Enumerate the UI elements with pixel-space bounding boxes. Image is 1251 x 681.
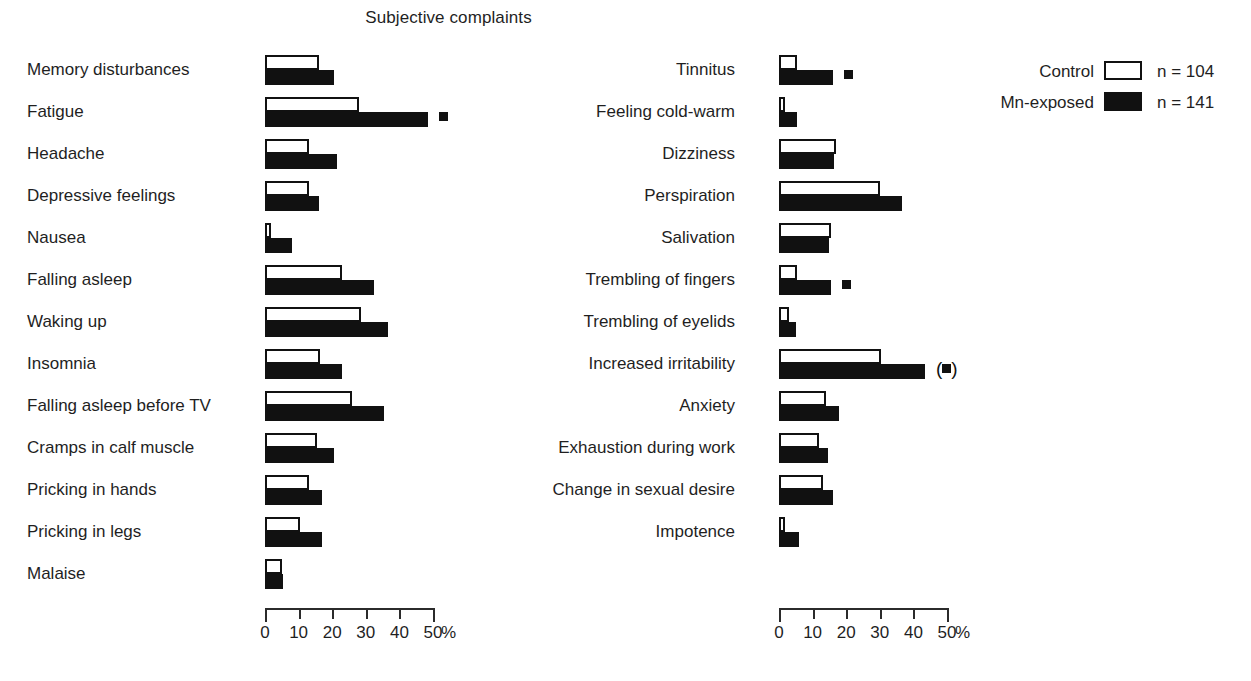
significance-marker-borderline: () (936, 360, 958, 377)
chart-row: Trembling of fingers (0, 265, 1251, 307)
bar-control (779, 223, 831, 238)
bar-control (779, 349, 881, 364)
axis-tick-label: 50 (424, 624, 443, 641)
axis-tick-label: 20 (837, 624, 856, 641)
row-label: Trembling of eyelids (584, 313, 736, 330)
bar-exposed (779, 532, 799, 547)
bar-control (779, 97, 785, 112)
axis-tick (299, 608, 301, 619)
chart-row: Change in sexual desire (0, 475, 1251, 517)
bar-exposed (779, 154, 834, 169)
row-label: Trembling of fingers (585, 271, 735, 288)
bar-exposed (779, 196, 902, 211)
axis-tick-label: 0 (774, 624, 783, 641)
chart-row: Perspiration (0, 181, 1251, 223)
bar-exposed (779, 70, 833, 85)
axis-tick (366, 608, 368, 619)
axis-tick-label: 10 (289, 624, 308, 641)
bar-control (779, 55, 797, 70)
row-label: Perspiration (644, 187, 735, 204)
chart-row: Trembling of eyelids (0, 307, 1251, 349)
bar-control (779, 265, 797, 280)
axis-tick (913, 608, 915, 619)
axis-tick-label: 20 (323, 624, 342, 641)
legend-label-mn-exposed: Mn-exposed (1000, 94, 1094, 111)
chart-row: Impotence (0, 517, 1251, 559)
x-axis: 01020304050% (265, 608, 433, 654)
axis-tick-label: 10 (803, 624, 822, 641)
row-label: Exhaustion during work (558, 439, 735, 456)
axis-tick (399, 608, 401, 619)
bar-control (779, 391, 826, 406)
legend-n-mn-exposed: n = 141 (1157, 94, 1214, 111)
axis-line (779, 608, 949, 622)
axis-tick (846, 608, 848, 619)
bar-exposed (779, 322, 796, 337)
bar-exposed (779, 238, 829, 253)
row-label: Dizziness (662, 145, 735, 162)
legend-item: Control n = 104 (980, 58, 1240, 89)
bar-control (779, 181, 880, 196)
legend-label-control: Control (1039, 63, 1094, 80)
x-axis: 01020304050% (779, 608, 947, 654)
chart-row: Dizziness (0, 139, 1251, 181)
row-label: Anxiety (679, 397, 735, 414)
bar-control (779, 307, 789, 322)
axis-tick-label: 40 (390, 624, 409, 641)
axis-unit-label: % (441, 624, 456, 641)
bar-exposed (779, 280, 831, 295)
significance-marker (842, 276, 851, 291)
chart-row: Anxiety (0, 391, 1251, 433)
white-rect-icon (1104, 61, 1142, 80)
axis-tick-label: 30 (870, 624, 889, 641)
axis-tick-label: 30 (356, 624, 375, 641)
axis-tick-label: 50 (938, 624, 957, 641)
row-label: Feeling cold-warm (596, 103, 735, 120)
chart-row: Exhaustion during work (0, 433, 1251, 475)
row-label: Impotence (656, 523, 735, 540)
black-rect-icon (1104, 92, 1142, 111)
chart-row: Increased irritability() (0, 349, 1251, 391)
bar-control (779, 433, 819, 448)
axis-tick (880, 608, 882, 619)
legend-item: Mn-exposed n = 141 (980, 89, 1240, 120)
bar-exposed (779, 448, 828, 463)
axis-tick-label: 40 (904, 624, 923, 641)
bar-exposed (779, 112, 797, 127)
axis-line (265, 608, 435, 622)
bar-control (779, 139, 836, 154)
significance-marker (844, 66, 853, 81)
axis-tick-label: 0 (260, 624, 269, 641)
legend-n-control: n = 104 (1157, 63, 1214, 80)
row-label: Increased irritability (589, 355, 735, 372)
bar-exposed (779, 490, 833, 505)
axis-tick (813, 608, 815, 619)
row-label: Tinnitus (676, 61, 735, 78)
bar-exposed (779, 406, 839, 421)
bar-exposed (779, 364, 925, 379)
chart-legend: Control n = 104 Mn-exposed n = 141 (980, 58, 1240, 120)
row-label: Salivation (661, 229, 735, 246)
axis-tick (332, 608, 334, 619)
row-label: Change in sexual desire (553, 481, 735, 498)
chart-root: Subjective complaints Memory disturbance… (0, 0, 1251, 681)
bar-control (779, 475, 823, 490)
axis-unit-label: % (955, 624, 970, 641)
chart-row: Salivation (0, 223, 1251, 265)
bar-control (779, 517, 785, 532)
